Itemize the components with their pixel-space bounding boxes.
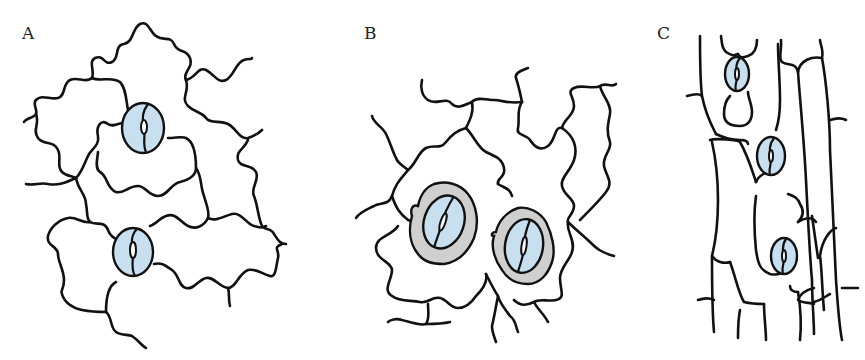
cell-walls-a — [24, 23, 286, 348]
cell-walls-b — [356, 68, 616, 342]
stoma-c2 — [757, 137, 785, 175]
stoma-c3 — [771, 238, 797, 274]
stoma-c1 — [725, 57, 749, 91]
stomata-diagram: A — [0, 0, 865, 360]
panel-label-c: C — [657, 23, 670, 43]
cell-walls-c — [687, 36, 858, 340]
panel-c: C — [657, 23, 858, 340]
panel-label-b: B — [364, 23, 377, 43]
panel-b: B — [356, 23, 616, 342]
stoma-b1 — [410, 182, 477, 264]
stoma-a2 — [113, 228, 153, 276]
panel-a: A — [21, 23, 286, 348]
panel-label-a: A — [21, 23, 35, 43]
stoma-b2 — [492, 208, 554, 284]
stoma-a1 — [122, 103, 164, 153]
